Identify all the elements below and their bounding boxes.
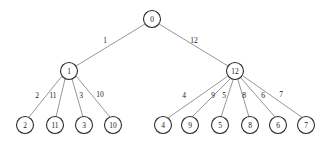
tree-node[interactable]: 10 — [105, 117, 122, 134]
tree-node[interactable]: 4 — [155, 117, 172, 134]
tree-edge — [243, 76, 303, 118]
edge-weight-label: 8 — [242, 91, 246, 100]
tree-node[interactable]: 12 — [227, 63, 244, 80]
tree-node[interactable]: 3 — [76, 117, 93, 134]
edge-weight-label: 4 — [182, 91, 186, 100]
node-label: 10 — [109, 121, 117, 130]
edge-weight-label: 1 — [103, 36, 107, 45]
node-label: 7 — [304, 121, 308, 130]
node-label: 2 — [23, 121, 27, 130]
edge-weight-label: 9 — [211, 91, 215, 100]
edge-weight-label: 5 — [222, 91, 226, 100]
tree-node[interactable]: 5 — [212, 117, 229, 134]
tree-node[interactable]: 6 — [270, 117, 287, 134]
node-label: 5 — [218, 121, 222, 130]
tree-node[interactable]: 1 — [61, 63, 78, 80]
tree-edge — [241, 78, 275, 117]
tree-node[interactable]: 9 — [182, 117, 199, 134]
edge-weight-label: 12 — [190, 36, 198, 45]
node-label: 8 — [248, 121, 252, 130]
node-label: 6 — [276, 121, 280, 130]
tree-edge — [76, 24, 145, 66]
node-label: 4 — [161, 121, 165, 130]
node-label: 9 — [188, 121, 192, 130]
tree-edge — [56, 79, 65, 117]
node-label: 12 — [231, 67, 239, 76]
edge-weight-label: 6 — [261, 91, 265, 100]
tree-edge — [159, 24, 228, 66]
node-label: 11 — [51, 121, 58, 130]
node-label: 0 — [150, 15, 154, 24]
node-label: 1 — [67, 67, 71, 76]
tree-node[interactable]: 8 — [242, 117, 259, 134]
tree-node[interactable]: 0 — [144, 11, 161, 28]
edge-weight-label: 7 — [279, 90, 283, 99]
edge-weight-label: 2 — [35, 91, 39, 100]
node-label: 3 — [82, 121, 86, 130]
tree-node[interactable]: 7 — [298, 117, 315, 134]
tree-node[interactable]: 2 — [17, 117, 34, 134]
edge-weight-label: 10 — [96, 90, 104, 99]
tree-diagram-canvas: 112211310495867 0112211310495867 — [0, 0, 330, 143]
edge-weight-label: 3 — [79, 91, 83, 100]
nodes-layer: 0112211310495867 — [17, 11, 315, 134]
tree-node[interactable]: 11 — [47, 117, 64, 134]
edge-weight-label: 11 — [49, 91, 56, 100]
tree-diagram-figure: 112211310495867 0112211310495867 — [0, 0, 330, 143]
tree-edge — [168, 76, 228, 118]
